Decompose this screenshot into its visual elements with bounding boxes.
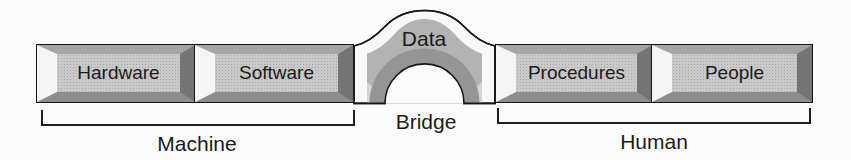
bridge-label: Bridge: [316, 110, 536, 134]
block-label-people: People: [672, 54, 797, 92]
machine-bracket: [41, 110, 355, 126]
block-label-hardware: Hardware: [57, 54, 180, 92]
block-label-software: Software: [215, 54, 338, 92]
block-people: People: [651, 44, 813, 103]
human-bracket: [497, 108, 811, 124]
block-software: Software: [194, 44, 354, 103]
machine-label: Machine: [87, 132, 307, 156]
block-bevel: People: [652, 45, 812, 102]
block-procedures: Procedures: [495, 44, 653, 103]
block-bevel: Software: [195, 45, 353, 102]
block-bevel: Procedures: [496, 45, 652, 102]
block-label-procedures: Procedures: [516, 54, 637, 92]
machine-human-bridge-diagram: Data Hardware Software Procedures People…: [0, 0, 851, 160]
human-label: Human: [544, 130, 764, 154]
block-hardware: Hardware: [36, 44, 196, 103]
block-bevel: Hardware: [37, 45, 195, 102]
